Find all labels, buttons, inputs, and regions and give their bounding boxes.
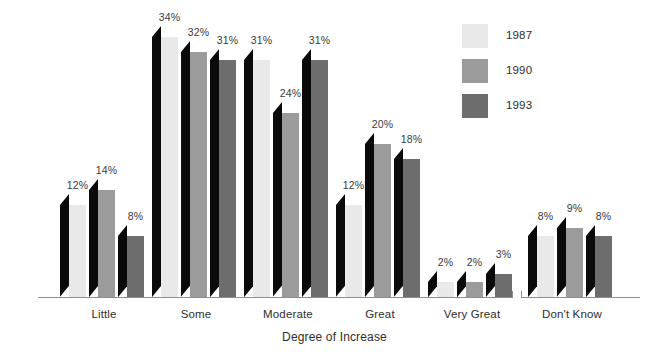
bar-front-face	[98, 190, 115, 297]
bar-front-face	[537, 236, 554, 297]
bar	[89, 179, 115, 297]
bar-value-label: 8%	[119, 210, 153, 222]
bar-front-face	[437, 282, 454, 297]
bar-front-face	[190, 52, 207, 297]
legend-swatch-1993	[462, 94, 488, 118]
bar	[244, 49, 270, 297]
bar	[457, 271, 483, 297]
bar	[273, 102, 299, 297]
bar	[365, 133, 391, 297]
bar-front-face	[403, 159, 420, 297]
bar	[336, 194, 362, 297]
bar-front-face	[466, 282, 483, 297]
bar-front-face	[595, 236, 612, 297]
bar-value-label: 8%	[587, 210, 621, 222]
bar	[486, 263, 512, 297]
bar	[528, 225, 554, 297]
bar	[118, 225, 144, 297]
bar-front-face	[253, 60, 270, 297]
plot-area: 12%14%8%34%32%31%31%24%31%12%20%18%2%2%3…	[0, 0, 669, 310]
bar	[210, 49, 236, 297]
bar	[586, 225, 612, 297]
bar-value-label: 20%	[366, 118, 400, 130]
bar-value-label: 14%	[90, 164, 124, 176]
bar-value-label: 3%	[487, 248, 521, 260]
bar-front-face	[127, 236, 144, 297]
bar-front-face	[345, 205, 362, 297]
x-axis-line	[38, 297, 512, 298]
legend-label-1987: 1987	[506, 29, 532, 41]
bar	[428, 271, 454, 297]
bar-value-label: 18%	[395, 133, 429, 145]
bar-front-face	[69, 205, 86, 297]
bar-front-face	[311, 60, 328, 297]
bar	[302, 49, 328, 297]
bar-front-face	[282, 113, 299, 297]
bar-value-label: 31%	[303, 34, 337, 46]
bar	[60, 194, 86, 297]
bar	[394, 148, 420, 297]
bar-chart: 12%14%8%34%32%31%31%24%31%12%20%18%2%2%3…	[0, 0, 669, 363]
bar-value-label: 31%	[211, 34, 245, 46]
axis-break-tick	[512, 291, 513, 298]
bar	[557, 217, 583, 297]
bar	[181, 41, 207, 297]
x-axis-title: Degree of Increase	[0, 330, 669, 344]
bar-front-face	[161, 37, 178, 297]
bar	[152, 26, 178, 297]
bar-value-label: 31%	[245, 34, 279, 46]
bar-value-label: 34%	[153, 11, 187, 23]
legend-label-1993: 1993	[506, 99, 532, 111]
bar-front-face	[566, 228, 583, 297]
bar-front-face	[219, 60, 236, 297]
axis-break-tick	[521, 291, 522, 298]
bar-front-face	[495, 274, 512, 297]
legend-swatch-1987	[462, 24, 488, 48]
legend-swatch-1990	[462, 59, 488, 83]
bar-front-face	[374, 144, 391, 297]
category-label-don-t-know: Don't Know	[512, 308, 632, 320]
legend-label-1990: 1990	[506, 64, 532, 76]
x-axis-line	[521, 297, 640, 298]
